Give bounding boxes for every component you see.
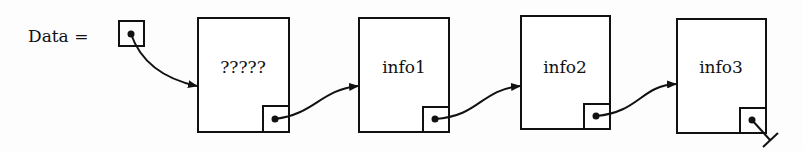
node-info: info1 [382,57,426,77]
head-label: Data = [28,26,88,46]
node-1: info1 [359,18,449,132]
node-info: info3 [699,57,743,77]
head-pointer-box [119,21,144,46]
node-3: info3 [677,19,766,133]
node-info: info2 [543,57,587,77]
arrow-head-to-node0 [131,34,197,86]
node-info: ????? [220,57,266,77]
node-2: info2 [521,16,610,129]
node-0: ????? [198,18,289,132]
linked-list-diagram: Data = ????? info1 info2 info3 [0,0,803,151]
diagram-canvas: Data = ????? info1 info2 info3 [0,0,803,151]
